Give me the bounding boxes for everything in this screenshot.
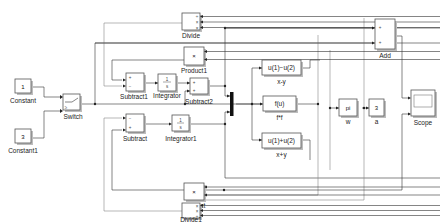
a-label: a xyxy=(375,118,379,125)
fcn-f-expr: f(u) xyxy=(275,100,285,108)
subtract1-block[interactable]: + − Subtract1 xyxy=(120,73,148,100)
divide-port-3: × xyxy=(196,26,199,31)
constant-block[interactable]: 1 Constant xyxy=(10,79,36,104)
subtract-label: Subtract xyxy=(123,135,147,142)
divide-label: Divide xyxy=(182,32,200,39)
subtract2-port-1: + xyxy=(193,80,196,85)
divide1-block[interactable]: × × ÷ Divide1 xyxy=(180,203,203,223)
fcn-f-block[interactable]: f(u) f*f xyxy=(260,96,298,121)
product-input-wires xyxy=(207,187,440,195)
subtract2-label: Subtract2 xyxy=(185,98,213,105)
integrator1-block[interactable]: 1 s Integrator1 xyxy=(165,115,197,143)
w-label: w xyxy=(345,118,351,125)
divide-port-2: × xyxy=(196,20,199,25)
divide-input-wires xyxy=(203,17,440,28)
w-constant-block[interactable]: pi w xyxy=(336,99,359,125)
add-block[interactable]: + + Add xyxy=(372,19,397,59)
fcn-x-minus-y-expr: u(1)−u(2) xyxy=(268,64,295,72)
add-port-1: + xyxy=(379,25,382,30)
scope-block[interactable]: Scope xyxy=(408,90,437,127)
simulink-canvas: 1 Constant 3 Constant1 ≥ Switch ÷ × × Di… xyxy=(0,0,446,223)
subtract1-label: Subtract1 xyxy=(120,93,148,100)
product1-block[interactable]: × Product1 xyxy=(181,47,207,74)
a-constant-block[interactable]: 3 a xyxy=(366,99,386,125)
switch-block[interactable]: ≥ Switch xyxy=(60,94,83,120)
subtract1-port-2: − xyxy=(129,84,132,89)
add-port-2: + xyxy=(379,40,382,45)
integrator1-label: Integrator1 xyxy=(165,135,197,143)
subtract2-port-2: + xyxy=(193,88,196,93)
w-value: pi xyxy=(346,105,351,111)
subtract-port-2: + xyxy=(129,125,132,130)
scope-label: Scope xyxy=(414,119,433,127)
constant1-block[interactable]: 3 Constant1 xyxy=(8,129,38,154)
subtract-block[interactable]: − + Subtract xyxy=(123,114,147,142)
fcn-f-label: f*f xyxy=(276,114,282,121)
subtract-port-1: − xyxy=(129,116,132,121)
product1-input-wires xyxy=(207,52,440,60)
integrator-label: Integrator xyxy=(153,92,182,100)
divide1-input-wires xyxy=(203,206,440,216)
fcn-x-minus-y-block[interactable]: u(1)−u(2) x-y xyxy=(259,60,303,86)
constant-label: Constant xyxy=(10,97,36,104)
switch-label: Switch xyxy=(63,113,83,120)
subtract1-port-1: + xyxy=(129,75,132,80)
divide-block[interactable]: ÷ × × Divide xyxy=(182,13,203,39)
integrator-block[interactable]: 1 s Integrator xyxy=(153,74,182,100)
add-label: Add xyxy=(379,52,391,59)
product-symbol: × xyxy=(192,189,196,195)
subtract2-block[interactable]: + + Subtract2 xyxy=(185,78,213,105)
mux-block[interactable] xyxy=(230,92,234,116)
scope-screen-icon xyxy=(414,95,432,107)
fcn-x-plus-y-expr: u(1)+u(2) xyxy=(268,137,295,145)
fcn-x-minus-y-label: x-y xyxy=(277,78,286,86)
fcn-x-plus-y-block[interactable]: u(1)+u(2) x+y xyxy=(259,133,303,159)
constant1-label: Constant1 xyxy=(8,147,38,154)
divide1-label: Divide1 xyxy=(180,216,202,223)
product1-label: Product1 xyxy=(181,67,207,74)
product1-symbol: × xyxy=(192,53,196,59)
fcn-x-plus-y-label: x+y xyxy=(276,151,287,159)
